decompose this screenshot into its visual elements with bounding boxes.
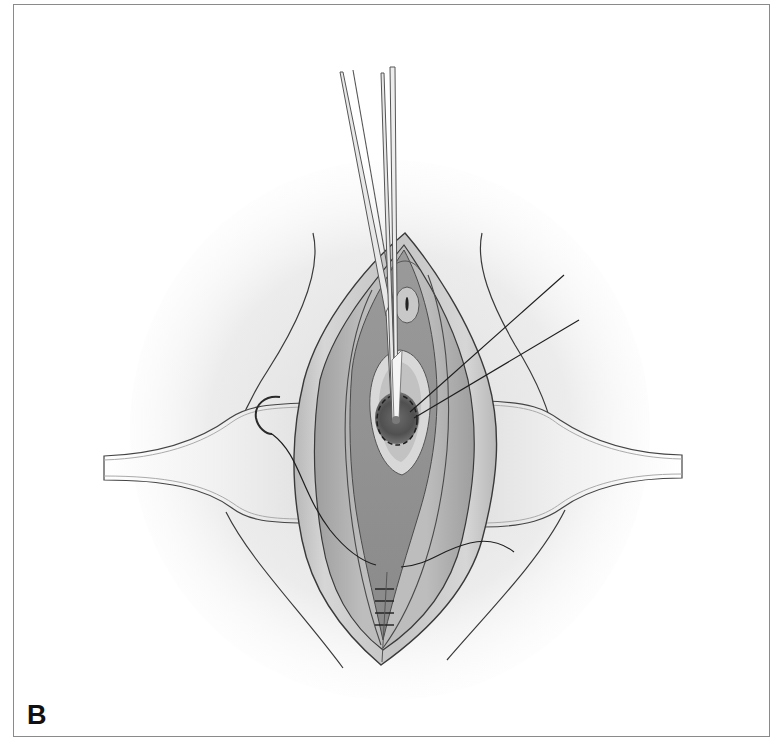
surgical-illustration xyxy=(0,0,778,744)
panel-label: B xyxy=(27,702,47,729)
urethral-meatus xyxy=(405,297,408,311)
forceps-tip xyxy=(392,416,400,424)
